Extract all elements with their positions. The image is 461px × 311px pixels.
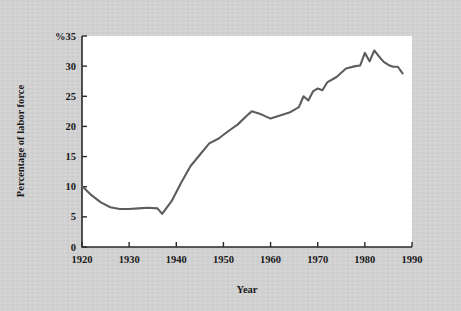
y-tick-label: 25 xyxy=(66,91,77,102)
y-tick-label: 0 xyxy=(71,242,76,253)
x-tick-label: 1920 xyxy=(72,254,93,265)
x-tick-label: 1990 xyxy=(402,254,423,265)
y-axis-title: Percentage of labor force xyxy=(15,85,26,198)
x-axis-title: Year xyxy=(237,284,258,295)
y-tick-label: 30 xyxy=(66,61,77,72)
y-tick-label: 10 xyxy=(66,181,77,192)
x-tick-label: 1930 xyxy=(119,254,140,265)
y-tick-label: 15 xyxy=(66,151,77,162)
x-tick-label: 1950 xyxy=(213,254,234,265)
y-tick-label: 20 xyxy=(66,121,77,132)
chart-svg: 19201930194019501960197019801990 0510152… xyxy=(0,0,461,311)
x-tick-label: 1940 xyxy=(166,254,187,265)
x-tick-label: 1980 xyxy=(354,254,375,265)
x-tick-label: 1970 xyxy=(307,254,328,265)
x-tick-label: 1960 xyxy=(260,254,281,265)
y-axis-tick-labels: 051015202530%35 xyxy=(55,31,76,253)
x-axis-tick-labels: 19201930194019501960197019801990 xyxy=(72,254,423,265)
y-tick-label: 5 xyxy=(71,211,76,222)
axis-frame xyxy=(82,36,412,247)
data-series-line xyxy=(82,50,403,213)
y-tick-label: %35 xyxy=(55,31,76,42)
chart-figure: 19201930194019501960197019801990 0510152… xyxy=(0,0,461,311)
